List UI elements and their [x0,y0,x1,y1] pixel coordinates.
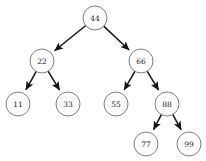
tree-node-22[interactable]: 22 [30,49,54,73]
tree-node-77[interactable]: 77 [134,132,158,156]
nodes-layer: 442266113355887799 [6,6,201,156]
tree-node-33[interactable]: 33 [56,92,80,116]
tree-edge-44-to-66 [103,26,129,50]
node-label-99: 99 [184,140,194,149]
tree-node-11[interactable]: 11 [6,92,30,116]
binary-tree-figure: 442266113355887799 [0,0,206,161]
tree-edge-66-to-55 [124,71,135,90]
tree-edge-22-to-11 [26,71,37,90]
tree-node-99[interactable]: 99 [177,132,201,156]
node-label-55: 55 [111,100,121,109]
tree-edge-88-to-77 [154,114,162,129]
tree-node-88[interactable]: 88 [155,92,179,116]
tree-edge-22-to-33 [48,71,60,90]
tree-edge-44-to-22 [55,25,86,51]
tree-node-55[interactable]: 55 [104,92,128,116]
tree-canvas: 442266113355887799 [0,0,206,161]
node-label-33: 33 [63,100,73,109]
tree-edge-88-to-99 [173,114,182,130]
node-label-88: 88 [162,100,172,109]
node-label-44: 44 [90,14,100,23]
tree-node-66[interactable]: 66 [129,49,153,73]
node-label-22: 22 [37,57,47,66]
edges-layer [26,25,181,130]
node-label-11: 11 [13,100,23,109]
node-label-77: 77 [141,140,151,149]
tree-edge-66-to-88 [147,71,159,90]
node-label-66: 66 [136,57,146,66]
tree-node-44[interactable]: 44 [83,6,107,30]
